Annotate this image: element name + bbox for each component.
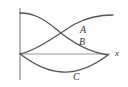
math-figure-diagram: A B C x bbox=[0, 0, 128, 87]
curve-a-label: A bbox=[79, 24, 87, 35]
figure-canvas: A B C x bbox=[0, 0, 128, 87]
x-axis-label: x bbox=[114, 48, 119, 58]
curve-b-label: B bbox=[79, 36, 85, 47]
curve-c-label: C bbox=[73, 71, 80, 82]
